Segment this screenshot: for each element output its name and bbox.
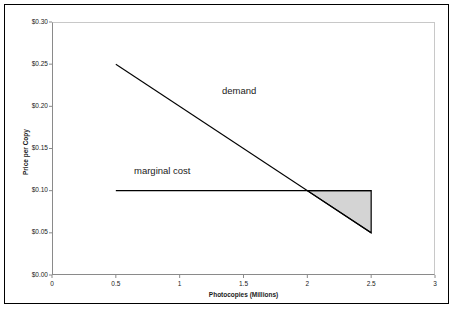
x-axis-tick-label: 2.5 — [356, 281, 386, 288]
x-axis-tick-label: 0.5 — [101, 281, 131, 288]
marginal-cost-series-label: marginal cost — [134, 166, 191, 176]
x-axis-tick-label: 1.5 — [229, 281, 259, 288]
chart-figure: $0.00$0.05$0.10$0.15$0.20$0.25$0.30 00.5… — [0, 0, 455, 313]
tick-marks-group — [49, 22, 435, 278]
y-axis-tick-label: $0.30 — [12, 19, 48, 26]
y-axis-tick-label: $0.20 — [12, 103, 48, 110]
x-axis-tick-label: 0 — [37, 281, 67, 288]
x-axis-title: Photocopies (Millions) — [52, 291, 435, 298]
y-axis-tick-label: $0.10 — [12, 187, 48, 194]
y-axis-tick-label: $0.05 — [12, 229, 48, 236]
y-axis-tick-label: $0.00 — [12, 272, 48, 279]
x-axis-tick-label: 2 — [292, 281, 322, 288]
x-axis-tick-label: 1 — [165, 281, 195, 288]
y-axis-tick-label: $0.25 — [12, 61, 48, 68]
demand-series-label: demand — [222, 86, 256, 96]
y-axis-title: Price per Copy — [22, 129, 29, 175]
plot-canvas — [52, 22, 435, 275]
x-axis-tick-label: 3 — [420, 281, 450, 288]
y-axis-tick-label: $0.15 — [12, 145, 48, 152]
